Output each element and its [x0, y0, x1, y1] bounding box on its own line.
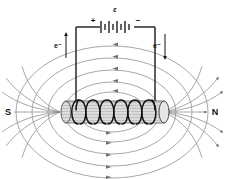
battery-negative-label: − — [136, 16, 141, 25]
battery-positive-label: + — [91, 16, 96, 25]
south-pole-label: S — [5, 107, 11, 117]
diagram-canvas: + − ε e⁻ e⁻ S N — [0, 0, 225, 179]
electron-label-left: e⁻ — [54, 42, 62, 49]
core-cap-left — [61, 101, 71, 123]
core-cap-right — [159, 101, 169, 123]
north-pole-label: N — [212, 107, 219, 117]
electron-label-right: e⁻ — [153, 42, 161, 49]
solenoid-field-diagram: + − ε e⁻ e⁻ S N — [0, 0, 225, 179]
